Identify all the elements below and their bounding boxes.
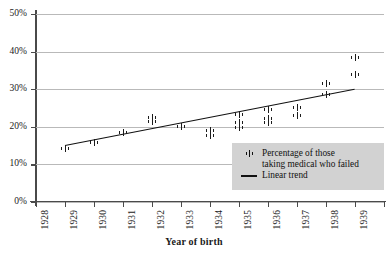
x-axis-tick — [268, 202, 269, 207]
x-axis-tick — [152, 202, 153, 207]
x-axis-tick — [355, 202, 356, 207]
y-axis-tick — [31, 164, 36, 165]
y-axis-tick-label: 30% — [10, 83, 27, 93]
x-axis-tick-label: 1938 — [330, 210, 340, 229]
chart-container: 0%10%20%30%40%50% 1928192919301931193219… — [0, 0, 388, 255]
y-axis-tick — [31, 127, 36, 128]
x-axis-tick — [384, 202, 385, 207]
x-axis-tick-label: 1929 — [69, 210, 79, 229]
data-point-marker — [322, 91, 331, 98]
data-point-marker — [90, 139, 99, 146]
x-axis-tick — [210, 202, 211, 207]
x-axis-tick — [181, 202, 182, 207]
data-point-marker — [148, 118, 157, 125]
x-axis-tick — [36, 202, 37, 207]
data-point-marker — [177, 123, 186, 130]
legend-label-series2: Linear trend — [262, 170, 308, 181]
x-axis-tick-label: 1937 — [301, 210, 311, 229]
x-axis-tick — [65, 202, 66, 207]
x-axis-tick-label: 1931 — [127, 210, 137, 229]
x-axis-tick-label: 1928 — [40, 210, 50, 229]
x-axis-tick-label: 1930 — [98, 210, 108, 229]
legend-line-icon — [241, 175, 257, 177]
gridline — [36, 89, 384, 90]
chart-legend: Percentage of those taking medical who f… — [232, 143, 384, 190]
data-point-marker — [206, 132, 215, 139]
x-axis-tick-label: 1936 — [272, 210, 282, 229]
data-point-marker — [293, 104, 302, 111]
y-axis-tick-label: 0% — [14, 196, 27, 206]
data-point-marker — [235, 124, 244, 131]
x-axis-tick-label: 1934 — [214, 210, 224, 229]
y-axis-tick — [31, 89, 36, 90]
y-axis-tick — [31, 14, 36, 15]
x-axis-title: Year of birth — [0, 236, 388, 247]
data-point-marker — [351, 71, 360, 78]
y-axis-labels: 0%10%20%30%40%50% — [0, 0, 34, 255]
x-axis-tick — [326, 202, 327, 207]
gridline — [36, 52, 384, 53]
data-point-marker — [235, 111, 244, 118]
data-point-marker — [293, 112, 302, 119]
data-point-marker — [322, 80, 331, 87]
data-point-marker — [264, 106, 273, 113]
legend-label-series1: Percentage of those taking medical who f… — [262, 148, 382, 170]
cut-off-title-text — [60, 0, 340, 6]
y-axis-tick — [31, 52, 36, 53]
gridline — [36, 14, 384, 15]
x-axis-tick — [123, 202, 124, 207]
x-axis-tick — [297, 202, 298, 207]
x-axis-tick-label: 1939 — [359, 210, 369, 229]
data-point-marker — [264, 119, 273, 126]
legend-marker-icon — [245, 150, 254, 157]
x-axis-tick-label: 1933 — [185, 210, 195, 229]
x-axis-tick — [94, 202, 95, 207]
y-axis-tick-label: 50% — [10, 8, 27, 18]
x-axis-tick-label: 1935 — [243, 210, 253, 229]
y-axis-tick-label: 20% — [10, 121, 27, 131]
data-point-marker — [119, 129, 128, 136]
x-axis-tick-label: 1932 — [156, 210, 166, 229]
data-point-marker — [351, 54, 360, 61]
y-axis-tick-label: 10% — [10, 158, 27, 168]
y-axis-tick-label: 40% — [10, 46, 27, 56]
data-point-marker — [61, 145, 70, 152]
x-axis-tick — [239, 202, 240, 207]
y-axis-tick — [31, 202, 36, 203]
